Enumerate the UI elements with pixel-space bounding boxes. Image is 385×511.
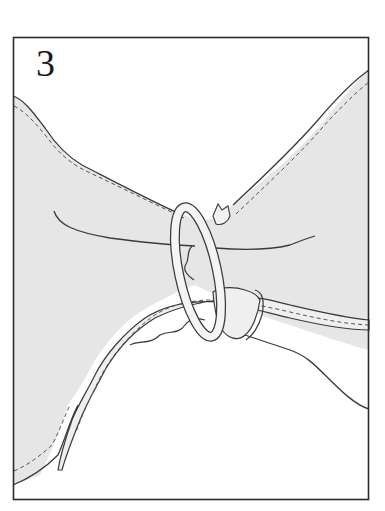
upper-fabric: [13, 68, 369, 485]
lower-right-edge: [245, 335, 369, 409]
step-number: 3: [36, 44, 55, 82]
illustration-panel: 3: [0, 0, 385, 511]
illustration-drawing: [0, 0, 385, 511]
